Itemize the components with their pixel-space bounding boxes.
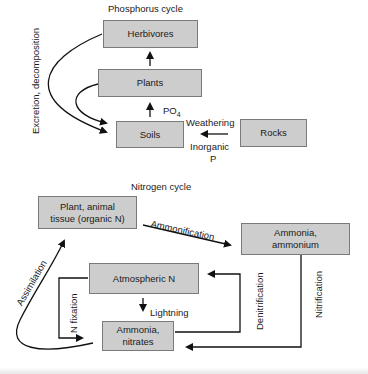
node-ammonium-line2: ammonium	[272, 239, 319, 251]
label-excretion-decomposition: Excretion, decomposition	[30, 28, 41, 134]
node-rocks: Rocks	[240, 119, 307, 147]
node-herbivores-label: Herbivores	[128, 28, 174, 40]
label-denitrification: Denitrification	[254, 272, 265, 330]
cropped-caption-strip	[0, 367, 368, 374]
node-atmospheric-n: Atmospheric N	[89, 263, 199, 294]
node-rocks-label: Rocks	[260, 127, 286, 139]
node-ammonia-ammonium: Ammonia, ammonium	[241, 223, 350, 255]
node-plants: Plants	[98, 69, 202, 97]
node-tissue-line2: tissue (organic N)	[50, 213, 124, 225]
label-p: P	[210, 153, 216, 164]
label-inorganic: Inorganic	[190, 141, 229, 152]
node-soils-label: Soils	[140, 129, 161, 141]
label-po4-subscript: 4	[177, 111, 181, 118]
node-soils: Soils	[116, 121, 184, 148]
node-herbivores: Herbivores	[103, 20, 198, 48]
nitrogen-cycle-title: Nitrogen cycle	[131, 181, 191, 192]
label-po4: PO4	[163, 105, 181, 120]
node-tissue-line1: Plant, animal	[60, 201, 115, 213]
node-ammonium-line1: Ammonia,	[274, 227, 317, 239]
node-plants-label: Plants	[137, 77, 163, 89]
node-nitrates-line2: nitrates	[122, 336, 153, 348]
phosphorus-cycle-title: Phosphorus cycle	[108, 3, 183, 14]
node-nitrates-line1: Ammonia,	[117, 324, 160, 336]
label-weathering: Weathering	[186, 117, 234, 128]
label-lightning: Lightning	[150, 307, 189, 318]
label-nitrification: Nitrification	[313, 271, 324, 318]
label-n-fixation: N fixation	[68, 293, 79, 333]
label-po4-main: PO	[163, 105, 177, 116]
node-atmospheric-label: Atmospheric N	[113, 273, 175, 285]
node-ammonia-nitrates: Ammonia, nitrates	[102, 321, 174, 351]
node-plant-animal-tissue: Plant, animal tissue (organic N)	[38, 196, 137, 229]
